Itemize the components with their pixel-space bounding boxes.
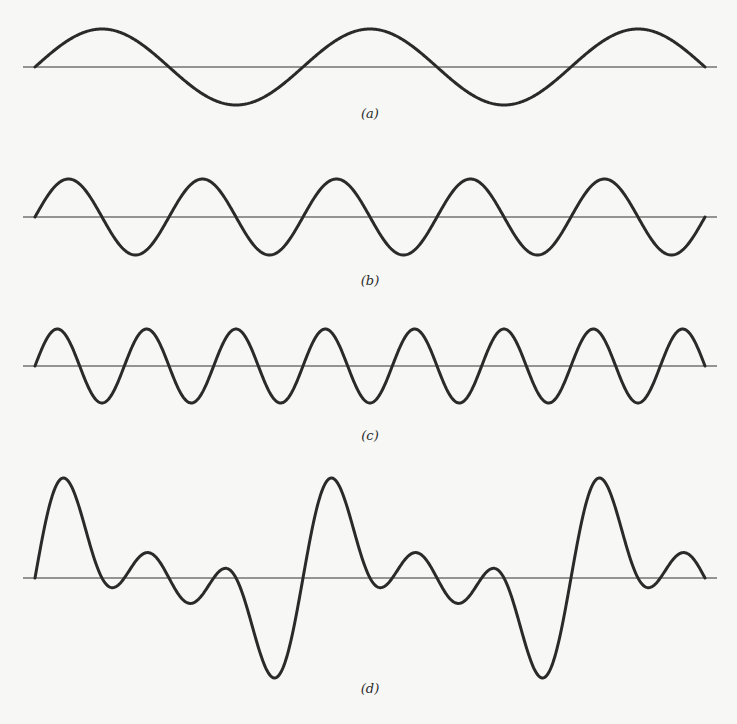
harmonic-waves-figure: (a) (b) (c) (d) xyxy=(0,0,737,724)
panel-c: (c) xyxy=(23,329,717,443)
panel-label-a: (a) xyxy=(361,106,379,121)
panel-label-d: (d) xyxy=(361,681,379,696)
panel-a: (a) xyxy=(23,29,717,121)
panel-b: (b) xyxy=(23,179,717,288)
panel-label-b: (b) xyxy=(361,273,379,288)
panel-d: (d) xyxy=(23,478,717,696)
panel-label-c: (c) xyxy=(361,428,378,443)
